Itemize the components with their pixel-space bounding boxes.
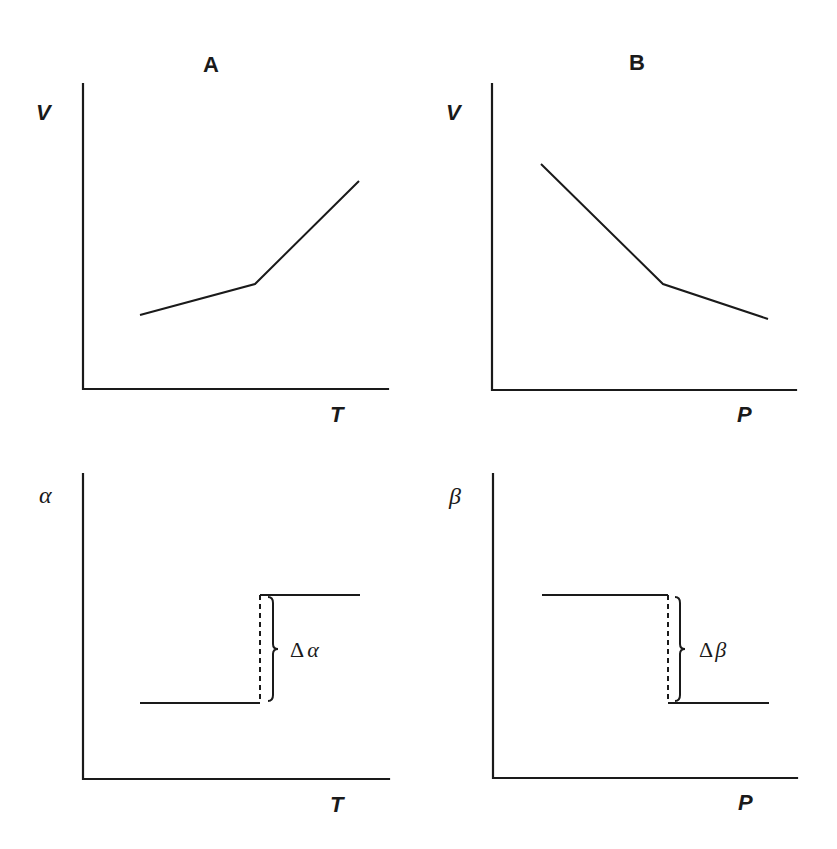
panel-a-volume-vs-temperature: A V T xyxy=(36,52,388,427)
axes xyxy=(493,474,797,778)
axes xyxy=(83,84,388,389)
brace-icon xyxy=(675,597,685,701)
panel-b-compressibility-vs-pressure: β P Δβ xyxy=(448,474,797,815)
volume-curve xyxy=(140,181,359,315)
thermodynamic-transition-figure: A V T B V P α T Δα β P Δβ xyxy=(0,0,837,849)
panel-title-a: A xyxy=(203,52,219,77)
axes xyxy=(83,474,389,779)
x-axis-label-p: P xyxy=(737,402,752,427)
x-axis-label-p: P xyxy=(738,790,753,815)
axes xyxy=(492,84,796,390)
delta-symbol: Δ xyxy=(290,637,304,662)
brace-icon xyxy=(268,597,278,701)
alpha-symbol: α xyxy=(307,637,319,662)
panel-title-b: B xyxy=(629,50,645,75)
y-axis-label-v: V xyxy=(446,100,463,125)
panel-a-expansivity-vs-temperature: α T Δα xyxy=(39,474,389,817)
panel-b-volume-vs-pressure: B V P xyxy=(446,50,796,427)
delta-symbol: Δ xyxy=(699,637,713,662)
x-axis-label-t: T xyxy=(330,792,345,817)
y-axis-label-beta: β xyxy=(448,483,461,509)
volume-curve xyxy=(541,164,768,319)
y-axis-label-alpha: α xyxy=(39,482,52,508)
delta-beta-label: Δβ xyxy=(699,637,726,662)
beta-symbol: β xyxy=(714,637,726,662)
x-axis-label-t: T xyxy=(330,402,345,427)
delta-alpha-label: Δα xyxy=(290,637,319,662)
y-axis-label-v: V xyxy=(36,100,53,125)
